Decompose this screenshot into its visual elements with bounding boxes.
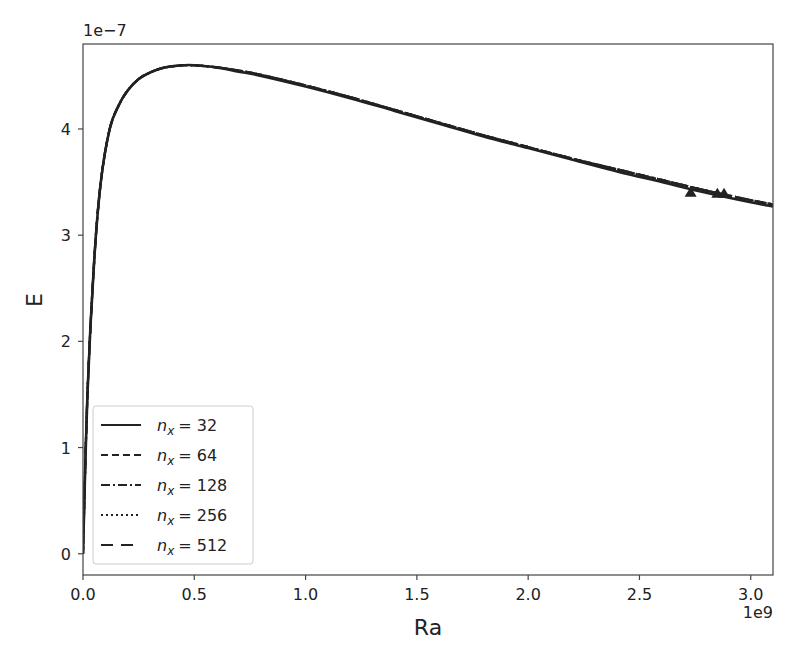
y-axis-label: E [22, 293, 47, 307]
x-offset-label: 1e9 [743, 603, 773, 622]
x-tick-label: 0.5 [182, 585, 207, 604]
x-tick-label: 2.0 [515, 585, 540, 604]
y-tick-label: 0 [61, 545, 71, 564]
x-tick-label: 0.0 [70, 585, 95, 604]
y-tick-label: 1 [61, 439, 71, 458]
y-tick-label: 3 [61, 226, 71, 245]
legend: nx= 32nx= 64nx= 128nx= 256nx= 512 [93, 406, 253, 564]
x-axis-ticks: 0.00.51.01.52.02.53.0 [70, 575, 763, 604]
y-offset-label: 1e−7 [83, 21, 127, 40]
y-tick-label: 4 [61, 120, 71, 139]
legend-label-1: nx= 64 [157, 446, 217, 468]
x-tick-label: 1.0 [293, 585, 318, 604]
x-tick-label: 3.0 [738, 585, 763, 604]
y-axis-ticks: 01234 [61, 120, 83, 564]
chart: 0.00.51.01.52.02.53.0 01234 1e−7 1e9 Ra … [0, 0, 798, 663]
y-tick-label: 2 [61, 332, 71, 351]
legend-label-0: nx= 32 [157, 416, 217, 438]
x-tick-label: 2.5 [627, 585, 652, 604]
x-tick-label: 1.5 [404, 585, 429, 604]
x-axis-label: Ra [414, 615, 442, 640]
